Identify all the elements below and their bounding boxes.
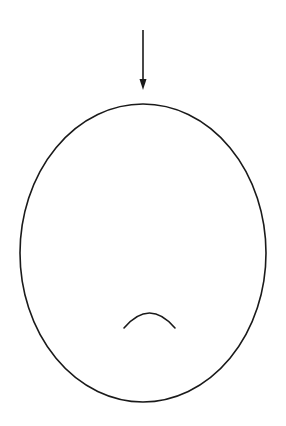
down-arrow-icon: [140, 30, 147, 90]
inner-arc: [124, 313, 175, 328]
outer-ellipse: [20, 104, 266, 402]
arrow-head: [140, 79, 147, 90]
diagram-svg: [0, 0, 286, 426]
diagram-canvas: [0, 0, 286, 426]
